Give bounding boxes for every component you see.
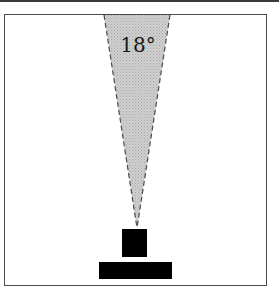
camera-body — [122, 229, 147, 257]
angle-label: 18° — [118, 33, 158, 57]
camera-base — [99, 262, 172, 279]
